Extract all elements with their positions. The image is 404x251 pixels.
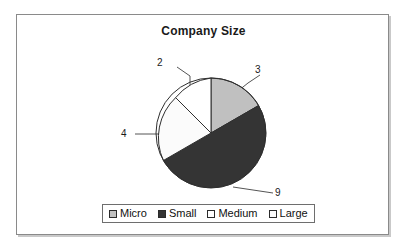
pie-chart-graphic (17, 15, 390, 236)
legend-swatch-small (158, 210, 166, 218)
data-label-micro: 3 (255, 65, 261, 75)
legend-label-large: Large (280, 208, 308, 219)
legend-label-medium: Medium (218, 208, 257, 219)
chart-frame: Company Size (16, 14, 389, 235)
legend-item-micro[interactable]: Micro (109, 208, 147, 219)
data-label-large: 4 (121, 129, 127, 139)
legend-swatch-large (269, 210, 277, 218)
chart-legend: Micro Small Medium Large (102, 204, 315, 223)
legend-swatch-medium (207, 210, 215, 218)
legend-swatch-micro (109, 210, 117, 218)
data-label-small: 9 (275, 188, 281, 198)
leader-line-small (233, 187, 273, 193)
legend-label-micro: Micro (120, 208, 147, 219)
legend-item-small[interactable]: Small (158, 208, 197, 219)
legend-item-large[interactable]: Large (269, 208, 308, 219)
data-label-medium: 2 (157, 58, 163, 68)
legend-label-small: Small (169, 208, 197, 219)
pie-slices (156, 78, 266, 188)
pie-plot-area: 2 3 4 9 (17, 15, 390, 236)
legend-item-medium[interactable]: Medium (207, 208, 257, 219)
